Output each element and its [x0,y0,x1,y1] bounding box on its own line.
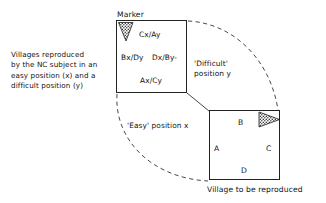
difficult-position-label: 'Difficult' position y [194,59,231,79]
village-corner-c: C [266,144,271,154]
marker-cell-cx-ay: Cx/Ay [139,30,160,39]
village-corner-b: B [238,118,243,128]
marker-cell-dx-by: Dx/By- [152,53,177,62]
figure-caption-left: Villages reproduced by the NC subject in… [11,50,115,92]
marker-title: Marker [117,10,144,20]
easy-position-label: 'Easy' position x [127,121,189,130]
figure-canvas: Marker Cx/Ay Bx/Dy Dx/By- Ax/Cy A B C D … [0,0,326,203]
easy-path-arc [117,94,208,181]
village-caption: Village to be reproduced [207,185,303,195]
marker-cell-bx-dy: Bx/Dy [121,53,144,62]
village-corner-a: A [214,144,219,154]
village-corner-d: D [241,166,247,176]
marker-to-village-connector [187,93,209,111]
marker-cell-ax-cy: Ax/Cy [140,76,162,85]
